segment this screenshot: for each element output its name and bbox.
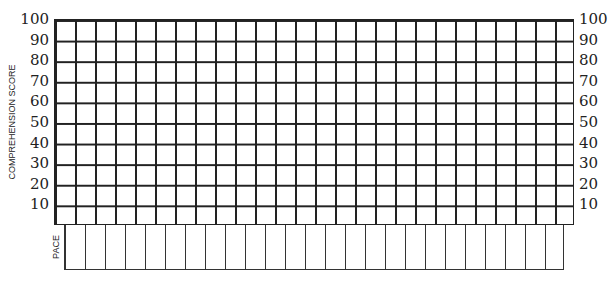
- tick-left-100: 100: [20, 12, 49, 27]
- tick-right-20: 20: [579, 177, 598, 192]
- tick-right-100: 100: [579, 12, 608, 27]
- tick-right-40: 40: [579, 136, 598, 151]
- tick-left-50: 50: [30, 115, 49, 130]
- pace-row: [64, 225, 564, 270]
- tick-right-90: 90: [579, 33, 598, 48]
- tick-right-80: 80: [579, 53, 598, 68]
- tick-right-10: 10: [579, 197, 598, 212]
- pace-label: PACE: [51, 235, 61, 259]
- tick-right-70: 70: [579, 74, 598, 89]
- tick-right-60: 60: [579, 94, 598, 109]
- tick-left-80: 80: [30, 53, 49, 68]
- tick-right-50: 50: [579, 115, 598, 130]
- y-axis-label: COMPREHENSION SCORE: [7, 64, 17, 179]
- tick-left-20: 20: [30, 177, 49, 192]
- tick-right-30: 30: [579, 156, 598, 171]
- tick-left-90: 90: [30, 33, 49, 48]
- tick-left-10: 10: [30, 197, 49, 212]
- comprehension-score-grid: [54, 19, 574, 225]
- tick-left-40: 40: [30, 136, 49, 151]
- tick-left-30: 30: [30, 156, 49, 171]
- tick-left-70: 70: [30, 74, 49, 89]
- tick-left-60: 60: [30, 94, 49, 109]
